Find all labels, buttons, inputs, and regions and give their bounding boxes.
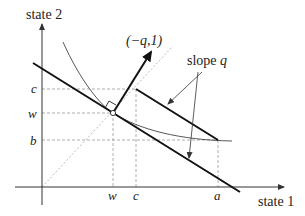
budget-line-long <box>33 63 240 192</box>
normal-vector-arrow <box>113 52 151 113</box>
x-axis-label: state 1 <box>258 194 294 209</box>
x-tick-a: a <box>214 188 221 203</box>
y-axis-label: state 2 <box>26 7 62 22</box>
y-tick-c: c <box>31 81 37 96</box>
vector-label: (−q,1) <box>126 33 163 49</box>
y-tick-w: w <box>28 106 37 121</box>
slope-pointer-long <box>189 72 198 158</box>
slope-label-var: q <box>220 53 227 68</box>
slope-pointer-short <box>168 72 202 104</box>
y-tick-b: b <box>30 133 37 148</box>
slope-label: slope q <box>187 53 227 68</box>
diagram-canvas: state 2 state 1 c w b w c a (−q,1) slope… <box>0 0 305 216</box>
right-angle-marker <box>105 101 116 108</box>
budget-line-short <box>136 89 218 140</box>
point-w-w <box>110 110 115 115</box>
slope-label-prefix: slope <box>187 53 220 68</box>
x-tick-c: c <box>133 188 139 203</box>
certainty-line <box>42 47 172 187</box>
x-tick-w: w <box>108 188 117 203</box>
